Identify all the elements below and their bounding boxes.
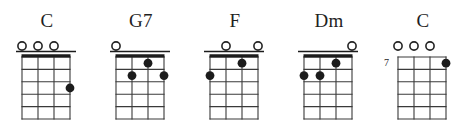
- finger-dot: [128, 71, 137, 80]
- finger-dot: [300, 71, 309, 80]
- open-string-marker: [18, 42, 26, 50]
- open-string-marker: [254, 42, 262, 50]
- fretboard-grid: 7: [376, 0, 470, 126]
- chord-diagram: Dm: [282, 0, 376, 126]
- finger-dot: [238, 59, 247, 68]
- finger-dot: [160, 71, 169, 80]
- open-string-marker: [222, 42, 230, 50]
- open-string-marker: [112, 42, 120, 50]
- fretboard-grid: [282, 0, 376, 126]
- open-string-marker: [426, 42, 434, 50]
- finger-dot: [144, 59, 153, 68]
- open-string-marker: [348, 42, 356, 50]
- open-string-marker: [50, 42, 58, 50]
- chord-diagram: G7: [94, 0, 188, 126]
- finger-dot: [442, 59, 451, 68]
- finger-dot: [66, 84, 75, 93]
- finger-dot: [316, 71, 325, 80]
- open-string-marker: [34, 42, 42, 50]
- chord-diagram: C7: [376, 0, 470, 126]
- open-string-marker: [410, 42, 418, 50]
- fretboard-grid: [94, 0, 188, 126]
- chord-diagram: C: [0, 0, 94, 126]
- chord-diagram: F: [188, 0, 282, 126]
- finger-dot: [206, 71, 215, 80]
- fret-position-number: 7: [384, 57, 389, 68]
- fretboard-grid: [188, 0, 282, 126]
- open-string-marker: [394, 42, 402, 50]
- chord-chart: CG7FDmC7: [0, 0, 472, 126]
- finger-dot: [332, 59, 341, 68]
- fretboard-grid: [0, 0, 94, 126]
